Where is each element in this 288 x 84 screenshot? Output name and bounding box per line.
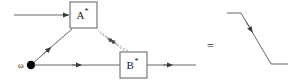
step-waveform-arrow [246, 22, 251, 31]
figure-canvas: A * ω B * [0, 0, 288, 84]
block-a[interactable]: A * [70, 2, 97, 28]
source-node[interactable]: ω [18, 60, 35, 70]
edge-a-b-lower [100, 33, 128, 51]
block-a-label: A [77, 9, 85, 21]
step-waveform-path [227, 13, 288, 64]
block-b-superscript: * [135, 57, 139, 66]
edge-node-a [33, 29, 72, 63]
block-diagram: A * ω B * [0, 0, 288, 84]
edge-a-b-upper-arrow [109, 39, 114, 43]
edge-node-a-line [33, 29, 72, 63]
block-b[interactable]: B * [120, 52, 147, 78]
block-b-label: B [127, 59, 134, 71]
block-a-superscript: * [85, 7, 89, 16]
source-node-dot [27, 61, 35, 69]
step-waveform [227, 13, 288, 64]
equals-sign: = [207, 39, 214, 53]
omega-label: ω [18, 60, 24, 70]
edge-node-a-arrow [44, 49, 49, 53]
